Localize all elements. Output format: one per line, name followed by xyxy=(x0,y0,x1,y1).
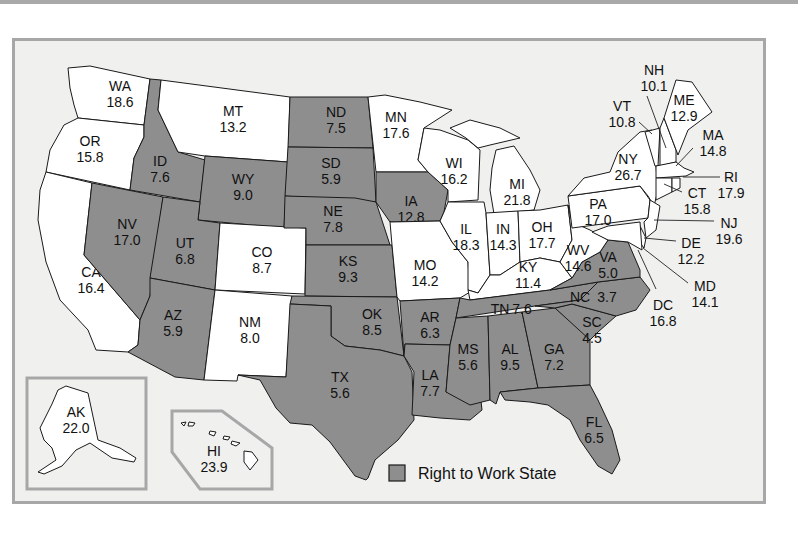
state-label-IL: IL xyxy=(460,221,472,237)
state-value-NM: 8.0 xyxy=(240,330,260,346)
state-label-WA: WA xyxy=(109,78,132,94)
state-value-TX: 5.6 xyxy=(330,385,350,401)
state-value-IN: 14.3 xyxy=(489,237,516,253)
state-value-IL: 18.3 xyxy=(452,237,479,253)
state-label-AK: AK xyxy=(67,404,86,420)
state-label-LA: LA xyxy=(421,367,439,383)
state-CT[interactable] xyxy=(656,178,672,200)
state-value-OK: 8.5 xyxy=(362,322,382,338)
state-value-SD: 5.9 xyxy=(321,171,341,187)
state-label-RI: RI xyxy=(724,169,738,185)
state-label-VT: VT xyxy=(613,98,631,114)
state-label-AL: AL xyxy=(501,341,518,357)
state-value-MI: 21.8 xyxy=(503,192,530,208)
state-label-NE: NE xyxy=(323,203,342,219)
state-value-MD: 14.1 xyxy=(691,294,718,310)
state-value-LA: 7.7 xyxy=(420,383,440,399)
state-value-MS: 5.6 xyxy=(458,357,478,373)
state-label-WI: WI xyxy=(445,155,462,171)
us-union-membership-map: WA 18.6 OR 15.8 CA 16.4 ID 7.6 NV 17.0 M… xyxy=(0,0,798,533)
state-label-NY: NY xyxy=(618,151,638,167)
state-value-ND: 7.5 xyxy=(326,120,346,136)
inset-alaska: AK 22.0 xyxy=(27,378,146,489)
state-label-MA: MA xyxy=(703,127,725,143)
state-label-FL: FL xyxy=(586,414,603,430)
state-value-NJ: 19.6 xyxy=(715,231,742,247)
state-value-AZ: 5.9 xyxy=(163,323,183,339)
state-label-NJ: NJ xyxy=(720,215,737,231)
state-label-KS: KS xyxy=(339,253,358,269)
state-value-AR: 6.3 xyxy=(420,325,440,341)
state-value-OH: 17.7 xyxy=(528,235,555,251)
legend-label: Right to Work State xyxy=(418,465,557,482)
state-value-WA: 18.6 xyxy=(106,94,133,110)
state-value-VT: 10.8 xyxy=(608,114,635,130)
state-value-AK: 22.0 xyxy=(62,420,89,436)
state-value-HI: 23.9 xyxy=(200,459,227,475)
state-value-MO: 14.2 xyxy=(411,273,438,289)
state-value-WV: 14.6 xyxy=(564,258,591,274)
state-value-MT: 13.2 xyxy=(219,119,246,135)
state-value-UT: 6.8 xyxy=(175,251,195,267)
state-value-RI: 17.9 xyxy=(717,185,744,201)
state-MA[interactable] xyxy=(656,162,694,178)
state-value-WY: 9.0 xyxy=(233,187,253,203)
state-label-SD: SD xyxy=(321,155,340,171)
state-label-IA: IA xyxy=(404,193,418,209)
state-label-NV: NV xyxy=(117,216,137,232)
state-value-FL: 6.5 xyxy=(584,430,604,446)
state-label-MO: MO xyxy=(414,257,437,273)
state-value-DE: 12.2 xyxy=(677,251,704,267)
state-label-GA: GA xyxy=(544,341,565,357)
state-label-OH: OH xyxy=(532,219,553,235)
state-label-IN: IN xyxy=(496,221,510,237)
state-label-ID: ID xyxy=(153,153,167,169)
state-value-CA: 16.4 xyxy=(77,280,104,296)
state-label-TX: TX xyxy=(331,369,350,385)
state-label-NH: NH xyxy=(644,62,664,78)
state-label-AZ: AZ xyxy=(164,307,182,323)
state-value-NE: 7.8 xyxy=(323,219,343,235)
state-label-VA: VA xyxy=(599,249,617,265)
state-label-ND: ND xyxy=(326,104,346,120)
state-NM[interactable]: NM 8.0 xyxy=(204,290,292,381)
state-value-NC: 3.7 xyxy=(597,289,617,305)
state-label-DE: DE xyxy=(681,235,700,251)
state-label-NC: NC xyxy=(570,289,590,305)
state-value-DC: 16.8 xyxy=(649,313,676,329)
state-WA[interactable]: WA 18.6 xyxy=(68,66,150,125)
state-value-MN: 17.6 xyxy=(382,125,409,141)
state-label-MT: MT xyxy=(223,103,244,119)
state-label-MI: MI xyxy=(509,176,525,192)
state-value-KS: 9.3 xyxy=(338,269,358,285)
state-KS[interactable]: KS 9.3 xyxy=(305,245,397,297)
state-WY[interactable]: WY 9.0 xyxy=(198,156,288,228)
state-value-CT: 15.8 xyxy=(683,201,710,217)
state-FL[interactable]: FL 6.5 xyxy=(500,385,620,474)
state-label-CO: CO xyxy=(252,244,273,260)
state-value-WI: 16.2 xyxy=(440,171,467,187)
state-label-WV: WV xyxy=(567,242,590,258)
state-ND[interactable]: ND 7.5 xyxy=(288,97,373,148)
state-value-ME: 12.9 xyxy=(670,108,697,124)
state-value-TN: 7.6 xyxy=(512,301,532,317)
state-RI[interactable] xyxy=(672,178,680,192)
state-MT[interactable]: MT 13.2 xyxy=(158,80,290,162)
state-value-MA: 14.8 xyxy=(699,143,726,159)
state-SD[interactable]: SD 5.9 xyxy=(285,147,376,202)
state-label-MD: MD xyxy=(694,278,716,294)
state-value-NV: 17.0 xyxy=(113,232,140,248)
legend: Right to Work State xyxy=(389,465,557,482)
state-CO[interactable]: CO 8.7 xyxy=(215,223,306,294)
state-label-MS: MS xyxy=(458,341,479,357)
state-label-CT: CT xyxy=(688,185,707,201)
state-OH[interactable]: OH 17.7 xyxy=(518,205,572,262)
state-value-OR: 15.8 xyxy=(76,149,103,165)
state-value-VA: 5.0 xyxy=(598,265,618,281)
state-label-DC: DC xyxy=(653,297,673,313)
state-label-AR: AR xyxy=(420,309,439,325)
state-label-HI: HI xyxy=(207,443,221,459)
state-value-AL: 9.5 xyxy=(500,357,520,373)
state-label-UT: UT xyxy=(176,235,195,251)
state-value-SC: 4.5 xyxy=(582,330,602,346)
